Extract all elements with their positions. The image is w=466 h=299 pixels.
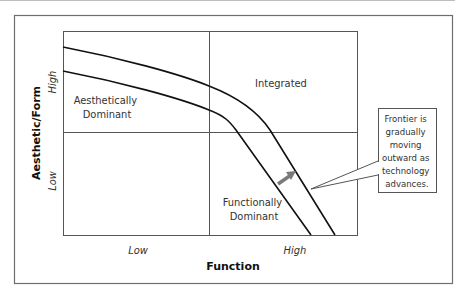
plot-area bbox=[64, 32, 358, 236]
x-tick-high: High bbox=[284, 244, 307, 257]
y-tick-low: Low bbox=[46, 170, 59, 191]
callout-pointer bbox=[311, 161, 378, 189]
outer-frontier-curve bbox=[63, 47, 335, 235]
y-axis-title: Aesthetic/Form bbox=[30, 86, 43, 180]
y-tick-high: High bbox=[46, 71, 59, 94]
quadrant-label-bottom-right: Functionally Dominant bbox=[223, 196, 286, 223]
x-tick-low: Low bbox=[128, 244, 149, 257]
callout-gap bbox=[377, 162, 380, 174]
quadrant-label-top-left: Aesthetically Dominant bbox=[74, 94, 141, 121]
x-axis-title: Function bbox=[206, 260, 260, 273]
frontier-diagram: Aesthetically Dominant Integrated Functi… bbox=[0, 0, 466, 299]
quadrant-label-top-right: Integrated bbox=[255, 77, 307, 90]
